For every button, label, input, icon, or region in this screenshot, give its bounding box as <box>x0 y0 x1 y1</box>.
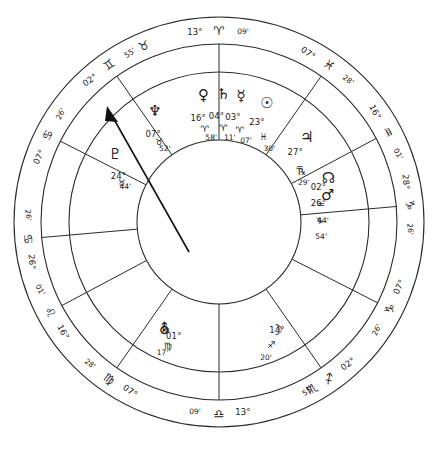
chart-wheel-svg <box>0 0 443 453</box>
astrology-natal-chart: 13°♈09'07°♓28'16°♒01'28°♑26'07°♑26'02°♐5… <box>0 0 443 453</box>
inner-circle <box>137 140 301 304</box>
